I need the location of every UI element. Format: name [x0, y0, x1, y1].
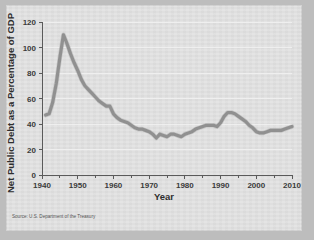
x-tick-label: 2000 [247, 181, 265, 190]
x-tick-label: 1970 [140, 181, 158, 190]
debt-gdp-line-chart: 020406080100120 194019501960197019801990… [0, 0, 314, 240]
x-tick-label: 1940 [33, 181, 51, 190]
y-tick-label: 80 [27, 69, 36, 78]
x-tick-label: 1980 [176, 181, 194, 190]
y-tick-label: 0 [32, 171, 37, 180]
y-axis-title: Net Public Debt as a Percentage of GDP [5, 12, 16, 193]
x-axis-title: Year [154, 191, 174, 202]
x-tick-labels: 19401950196019701980199020002010 [33, 181, 301, 190]
x-tick-label: 1960 [105, 181, 123, 190]
y-tick-label: 40 [27, 120, 36, 129]
series-line [46, 35, 292, 138]
y-tick-labels: 020406080100120 [23, 18, 37, 180]
x-tick-label: 1950 [69, 181, 87, 190]
series-line-halo [46, 35, 292, 138]
y-tick-group [39, 22, 43, 175]
y-tick-label: 20 [27, 146, 36, 155]
labels-group: 020406080100120 194019501960197019801990… [23, 18, 302, 190]
y-tick-label: 120 [23, 18, 37, 27]
series-group [46, 35, 292, 138]
axes-group [39, 22, 293, 179]
y-tick-label: 60 [27, 95, 36, 104]
x-tick-label: 1990 [212, 181, 230, 190]
chart-figure: 020406080100120 194019501960197019801990… [0, 0, 314, 240]
y-tick-label: 100 [23, 44, 37, 53]
gridlines-group [42, 22, 292, 175]
plot-wrapper: 020406080100120 194019501960197019801990… [0, 0, 314, 240]
x-tick-group [42, 175, 292, 179]
x-tick-label: 2010 [283, 181, 301, 190]
source-note: Source: U.S. Department of the Treasury [12, 214, 96, 219]
